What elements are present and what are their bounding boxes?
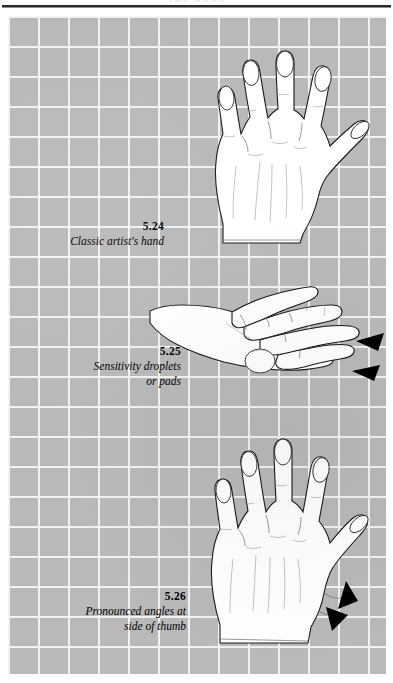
running-head: THE HAND	[0, 0, 393, 2]
figure-5-24-text: Classic artist's hand	[26, 234, 164, 248]
arrowhead-upper-fingertip	[356, 333, 384, 351]
figure-5-24-caption: 5.24 Classic artist's hand	[26, 219, 164, 249]
hand-thumb-angles-svg	[190, 429, 386, 657]
hand-side-view-svg	[148, 283, 386, 388]
figure-5-26-caption: 5.26 Pronounced angles at side of thumb	[26, 589, 186, 633]
figure-5-24-illustration	[190, 44, 380, 249]
figure-5-26-illustration	[190, 429, 386, 657]
figure-5-26-number: 5.26	[26, 589, 186, 603]
grid-plate: 5.24 Classic artist's hand	[8, 16, 386, 674]
figure-5-25-number: 5.25	[26, 344, 181, 358]
figure-5-25-caption: 5.25 Sensitivity droplets or pads	[26, 344, 181, 388]
header-rule-shadow	[2, 7, 391, 8]
arrowhead-upper-thumb-side	[338, 581, 358, 609]
book-page: THE HAND	[0, 0, 393, 683]
figure-5-24-number: 5.24	[26, 219, 164, 233]
figure-5-26-text: Pronounced angles at side of thumb	[26, 604, 186, 633]
arrowhead-lower-fingertip	[352, 365, 380, 381]
figure-5-25-text: Sensitivity droplets or pads	[26, 359, 181, 388]
figure-5-25-illustration	[148, 283, 386, 388]
arrowhead-lower-thumb-side	[326, 607, 348, 631]
hand-back-view-svg	[190, 44, 380, 249]
